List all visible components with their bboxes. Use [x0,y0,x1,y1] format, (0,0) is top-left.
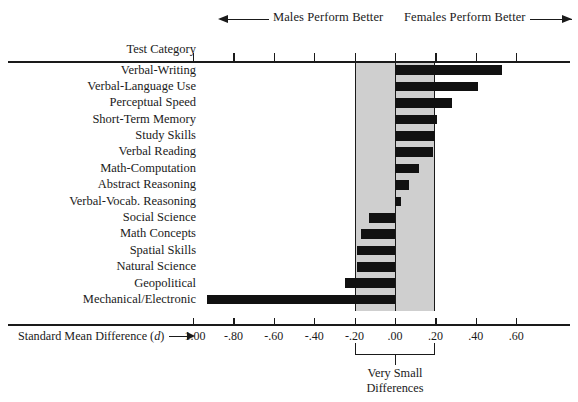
chart-row: Study Skills [0,128,578,144]
chart-row: Verbal-Writing [0,62,578,78]
category-label: Perceptual Speed [0,95,196,110]
top-axis-tick [193,53,194,61]
bar-rows: Verbal-WritingVerbal-Language UsePercept… [0,62,578,308]
top-axis-tick [476,53,477,61]
bar [207,295,395,305]
bar [395,164,419,174]
x-axis-tick [476,318,477,325]
females-perform-better-label: Females Perform Better [404,10,526,25]
category-label: Spatial Skills [0,243,196,258]
x-axis-title: Standard Mean Difference (d) [18,329,164,344]
x-axis-tick [435,318,436,325]
top-axis-tick [516,53,517,61]
category-label: Verbal Reading [0,144,196,159]
bar [395,82,478,92]
top-axis-tick [314,53,315,61]
males-perform-better-label: Males Perform Better [273,10,383,25]
bar [395,65,502,75]
top-axis-tick [395,53,396,61]
category-label: Social Science [0,210,196,225]
category-label: Math-Computation [0,161,196,176]
bar [395,147,433,157]
chart-row: Math Concepts [0,226,578,242]
chart-row: Geopolitical [0,275,578,291]
x-axis: Standard Mean Difference (d) -1.00-.80-.… [0,316,578,346]
x-axis-tick [395,318,396,325]
plot-area: Test Category Verbal-WritingVerbal-Langu… [0,40,578,312]
chart-row: Spatial Skills [0,242,578,258]
x-axis-tick [314,318,315,325]
chart-row: Mechanical/Electronic [0,291,578,307]
bar [395,180,409,190]
category-label: Study Skills [0,128,196,143]
chart-row: Verbal-Vocab. Reasoning [0,193,578,209]
direction-header: Males Perform Better Females Perform Bet… [0,8,578,30]
top-axis-tick [233,53,234,61]
bar [357,246,395,256]
chart-row: Social Science [0,210,578,226]
bar [395,115,437,125]
category-label: Verbal-Writing [0,63,196,78]
gender-differences-bar-chart: Males Perform Better Females Perform Bet… [0,0,578,402]
x-axis-tick [193,318,194,325]
x-axis-tick [274,318,275,325]
bar [361,229,395,239]
chart-row: Verbal Reading [0,144,578,160]
bar [369,213,395,223]
top-axis-tick [435,53,436,61]
chart-row: Natural Science [0,259,578,275]
bar [395,131,435,141]
chart-row: Perceptual Speed [0,95,578,111]
chart-row: Abstract Reasoning [0,177,578,193]
bar [357,262,395,272]
bracket-caption: Very Small Differences [366,366,423,395]
bracket-caption-line-1: Very Small [366,366,423,381]
category-label: Mechanical/Electronic [0,292,196,307]
x-axis-tick [355,318,356,325]
test-category-column-header: Test Category [0,42,196,57]
category-label: Geopolitical [0,276,196,291]
males-arrow-line [227,19,269,20]
category-label: Verbal-Vocab. Reasoning [0,194,196,209]
x-axis-tick-label: .60 [491,329,541,344]
chart-row: Short-Term Memory [0,111,578,127]
x-axis-tick [516,318,517,325]
category-label: Verbal-Language Use [0,79,196,94]
bar [395,98,452,108]
bracket-caption-line-2: Differences [366,381,423,396]
arrow-right-icon [562,15,572,23]
bar [345,278,396,288]
x-axis-rule [8,324,570,326]
category-label: Short-Term Memory [0,112,196,127]
x-axis-title-prefix: Standard Mean Difference ( [18,329,154,343]
chart-row: Verbal-Language Use [0,78,578,94]
x-axis-tick [233,318,234,325]
x-axis-title-suffix: ) [160,329,164,343]
category-label: Abstract Reasoning [0,177,196,192]
top-axis-tick [355,53,356,61]
bar [395,197,401,207]
category-label: Math Concepts [0,226,196,241]
top-axis-tick [274,53,275,61]
category-label: Natural Science [0,259,196,274]
chart-row: Math-Computation [0,160,578,176]
bracket-stem [395,354,396,365]
